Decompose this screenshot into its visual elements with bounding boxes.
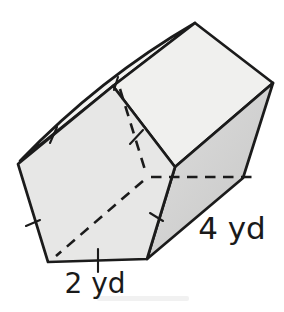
prism-figure: 2 yd 4 yd: [0, 0, 284, 312]
base-edge-label: 2 yd: [64, 267, 125, 300]
prism-length-label: 4 yd: [198, 210, 266, 246]
pentagonal-prism-diagram: 2 yd 4 yd: [0, 0, 284, 312]
